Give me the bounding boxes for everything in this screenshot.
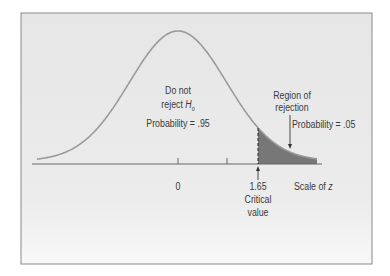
reject-region-label-line2: rejection	[266, 102, 319, 114]
reject-text: reject	[161, 99, 185, 110]
axis-title: Scale of z	[294, 181, 333, 193]
tick-label-critical: 1.65	[240, 181, 275, 193]
critical-label-line1: Critical	[236, 194, 280, 206]
h0-subscript: 0	[192, 106, 195, 112]
accept-region-label-line1: Do not	[152, 85, 205, 97]
tick-label-zero: 0	[169, 181, 187, 193]
critical-label-line2: value	[236, 207, 280, 219]
reject-probability-label: Probability = .05	[292, 119, 355, 131]
accept-region-label-line2: reject H0	[147, 99, 209, 115]
accept-probability-label: Probability = .95	[138, 118, 217, 130]
normal-distribution-figure	[0, 0, 390, 276]
axis-title-text: Scale of	[294, 181, 328, 192]
figure-frame	[21, 13, 372, 264]
axis-variable: z	[328, 181, 332, 192]
reject-region-label-line1: Region of	[266, 90, 319, 102]
